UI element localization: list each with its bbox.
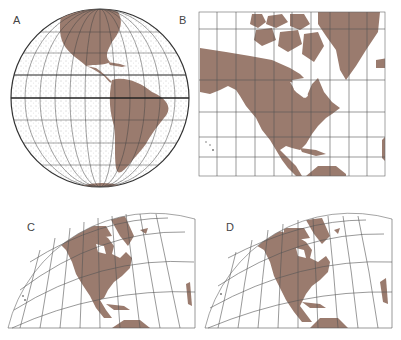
panel-label-b: B bbox=[179, 14, 186, 26]
map-projection-figure bbox=[0, 0, 401, 340]
panel-a-globe bbox=[10, 7, 190, 192]
panel-label-d: D bbox=[226, 221, 234, 233]
panel-b-rectangular-map bbox=[199, 12, 388, 176]
panel-label-a: A bbox=[13, 14, 20, 26]
panel-c-conic-map bbox=[8, 213, 195, 328]
panel-label-c: C bbox=[27, 221, 35, 233]
